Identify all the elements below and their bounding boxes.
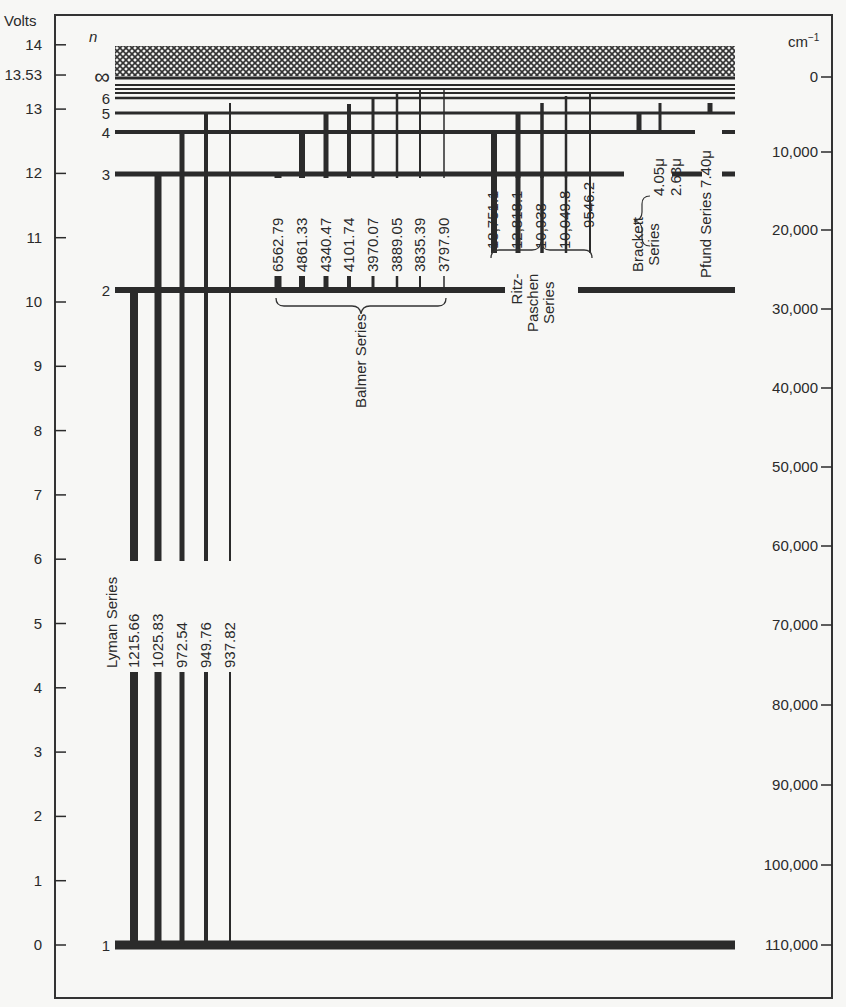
wavenumber-tick-label: 100,000: [764, 856, 818, 873]
pfund-label: Pfund Series: [697, 192, 714, 278]
volts-tick-label: 6: [34, 550, 42, 567]
volts-tick-label: 12: [25, 164, 42, 181]
wavenumber-tick-label: 40,000: [772, 379, 818, 396]
volts-tick-label: 0: [34, 936, 42, 953]
volts-tick-label: 4: [34, 679, 42, 696]
continuum-hatch: [115, 46, 735, 76]
wavenumber-unit: cm: [788, 33, 808, 50]
volts-tick-label: 13: [25, 100, 42, 117]
volts-tick-label: 11: [26, 229, 42, 246]
level-label-n2: 2: [102, 282, 110, 299]
wavenumber-tick-label: 70,000: [772, 616, 818, 633]
wavelength-label: 1215.66: [125, 565, 142, 668]
wavelength-label: 6562.79: [269, 182, 286, 272]
wavenumber-tick-label: 60,000: [772, 537, 818, 554]
brackett-wavelength-1: 4.05μ: [650, 158, 667, 196]
volts-tick-label: 2: [34, 807, 42, 824]
lyman-series-label: Lyman Series: [103, 577, 120, 668]
wavenumber-tick-label: 20,000: [772, 221, 818, 238]
wavelength-label: 10,049.8: [556, 182, 573, 249]
energy-level-diagram: 123456∞ 1413.53131211109876543210 010,00…: [0, 0, 846, 1007]
wavelength-label: 1025.83: [149, 565, 166, 668]
level-label-n6: 6: [102, 90, 110, 107]
ionization-continuum: [115, 46, 735, 76]
paschen-label-line3: Series: [541, 274, 557, 332]
wavenumber-tick-label: 10,000: [772, 143, 818, 160]
wavelength-label: 3797.90: [435, 182, 452, 272]
brackett-label-line2: Series: [646, 217, 662, 272]
wavelength-label: 4101.74: [340, 182, 357, 272]
volts-tick-label: 9: [34, 357, 42, 374]
brackett-wavelengths: 4.05μ 2.63μ: [650, 158, 684, 196]
volts-tick-label: 10: [25, 293, 42, 310]
wavelength-label: 4340.47: [317, 182, 334, 272]
wavenumber-axis: 010,00020,00030,00040,00050,00060,00070,…: [764, 68, 832, 953]
brackett-label-line1: Brackett: [630, 217, 646, 272]
pfund-wavelength-1: 7.40μ: [697, 150, 714, 188]
wavenumber-unit-exponent: −1: [808, 32, 819, 43]
wavelength-label: 3889.05: [388, 182, 405, 272]
level-label-n3: 3: [102, 166, 110, 183]
wavenumber-tick-label: 30,000: [772, 300, 818, 317]
volts-tick-label: 5: [34, 615, 42, 632]
wavelength-label: 972.54: [173, 565, 190, 668]
wavelength-label: 937.82: [221, 565, 238, 668]
paschen-label-line2: Paschen: [525, 274, 541, 332]
level-label-n4: 4: [102, 124, 110, 141]
volts-tick-label: 14: [25, 36, 42, 53]
wavelength-label: 18,751.1: [484, 182, 501, 249]
wavenumber-tick-label: 0: [810, 68, 818, 85]
wavelength-label: 10,938: [532, 182, 549, 249]
paschen-series-label: Ritz- Paschen Series: [509, 274, 557, 332]
balmer-brace: [276, 298, 446, 314]
volts-tick-label: 7: [34, 486, 42, 503]
wavelength-label: 949.76: [197, 565, 214, 668]
wavelength-label: 12,818.1: [508, 182, 525, 249]
level-label-n5: 5: [102, 105, 110, 122]
wavenumber-tick-label: 90,000: [772, 776, 818, 793]
wavenumber-axis-label: cm−1: [788, 32, 819, 50]
volts-tick-label: 13.53: [4, 66, 42, 83]
wavenumber-tick-label: 80,000: [772, 696, 818, 713]
pfund-series-label: Pfund Series 7.40μ: [697, 150, 714, 278]
paschen-label-line1: Ritz-: [509, 274, 525, 332]
wavenumber-tick-label: 50,000: [772, 458, 818, 475]
brackett-wavelength-2: 2.63μ: [667, 158, 684, 196]
wavelength-label: 3835.39: [411, 182, 428, 272]
level-label-n∞: ∞: [94, 64, 110, 89]
diagram-canvas: 123456∞ 1413.53131211109876543210 010,00…: [0, 0, 846, 1007]
volts-tick-label: 1: [34, 872, 42, 889]
wavenumber-tick-label: 110,000: [765, 936, 818, 953]
n-axis-label: n: [89, 28, 97, 45]
wavelength-label: 4861.33: [293, 182, 310, 272]
balmer-series-label: Balmer Series: [352, 314, 369, 408]
volts-axis: 1413.53131211109876543210: [4, 36, 66, 953]
wavelength-label: 9546.2: [580, 182, 597, 249]
volts-tick-label: 8: [34, 422, 42, 439]
brackett-series-label: Brackett Series: [630, 217, 662, 272]
volts-tick-label: 3: [34, 743, 42, 760]
volts-axis-label: Volts: [4, 12, 37, 29]
level-label-n1: 1: [102, 937, 110, 954]
wavelength-label: 3970.07: [364, 182, 381, 272]
